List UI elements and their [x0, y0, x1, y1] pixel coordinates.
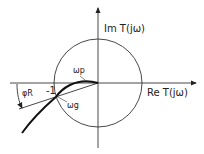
omega-p-leader	[80, 76, 85, 80]
omega-g-label: ωg	[67, 102, 79, 110]
imag-axis-label: Im T(jω)	[104, 24, 145, 34]
phi-r-label: φR	[22, 90, 33, 98]
diagram-canvas	[0, 0, 204, 154]
omega-g-leader	[58, 97, 67, 102]
omega-p-label: ωp	[73, 67, 85, 75]
real-axis-label: Re T(jω)	[147, 88, 188, 98]
nyquist-diagram: Im T(jω) Re T(jω) -1 ωp ωg φR	[0, 0, 204, 154]
minus-one-label: -1	[46, 86, 56, 96]
